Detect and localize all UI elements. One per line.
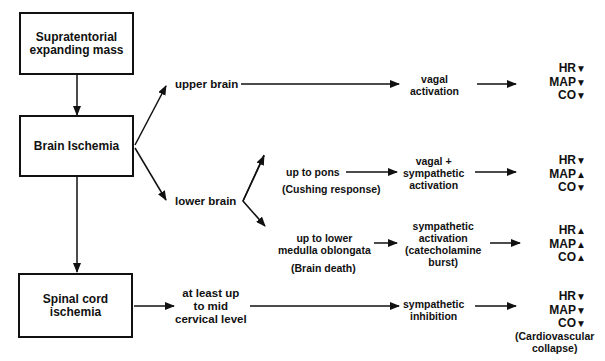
down-triangle-icon: ▼ bbox=[576, 63, 586, 76]
brain-ischemia-box: Brain Ischemia bbox=[19, 115, 134, 177]
outcome-row: CO▼ bbox=[520, 181, 586, 195]
sympathetic-inhibition-label: sympathetic inhibition bbox=[403, 298, 464, 322]
medulla-line-1: up to lower bbox=[278, 232, 371, 244]
up-to-pons-label: up to pons bbox=[286, 166, 340, 178]
down-triangle-icon: ▼ bbox=[576, 291, 586, 304]
medulla-label: up to lower medulla oblongata bbox=[278, 232, 371, 256]
collapse-line-1: (Cardiovascular bbox=[515, 330, 594, 342]
outcome-row: CO▲ bbox=[520, 251, 586, 265]
outcome-row: CO▼ bbox=[520, 317, 586, 331]
up-triangle-icon: ▲ bbox=[576, 252, 586, 265]
outcome-row: CO▼ bbox=[520, 89, 586, 103]
down-triangle-icon: ▼ bbox=[576, 182, 586, 195]
vagal-line-2: activation bbox=[410, 85, 459, 97]
cushing-response-label: (Cushing response) bbox=[282, 183, 381, 195]
vagal-line-1: vagal bbox=[410, 73, 459, 85]
cardiovascular-collapse-label: (Cardiovascular collapse) bbox=[515, 330, 594, 354]
vagal-sympathetic-activation-label: vagal + sympathetic activation bbox=[403, 155, 464, 191]
sympathetic-activation-label: sympathetic activation (catecholamine bu… bbox=[405, 220, 481, 268]
cervical-level-label: at least up to mid cervical level bbox=[175, 287, 247, 326]
si-line-1: sympathetic bbox=[403, 298, 464, 310]
down-triangle-icon: ▼ bbox=[576, 318, 586, 331]
up-triangle-icon: ▲ bbox=[576, 225, 586, 238]
sa-line-1: sympathetic bbox=[405, 220, 481, 232]
collapse-line-2: collapse) bbox=[515, 342, 594, 354]
down-triangle-icon: ▼ bbox=[576, 77, 586, 90]
down-triangle-icon: ▼ bbox=[576, 305, 586, 318]
spinal-cord-ischemia-label: Spinal cord ischemia bbox=[36, 293, 116, 319]
outcome-row: MAP▼ bbox=[520, 304, 586, 318]
si-line-2: inhibition bbox=[403, 310, 464, 322]
brain-ischemia-label: Brain Ischemia bbox=[34, 140, 119, 153]
outcome-row: MAP▲ bbox=[520, 168, 586, 182]
vs-line-2: sympathetic bbox=[403, 167, 464, 179]
cervical-line-1: at least up bbox=[175, 287, 247, 300]
outcome-upper-brain: HR▼ MAP▼ CO▼ bbox=[520, 62, 586, 103]
outcome-spinal: HR▼ MAP▼ CO▼ bbox=[520, 290, 586, 331]
outcome-row: HR▼ bbox=[520, 62, 586, 76]
up-triangle-icon: ▲ bbox=[576, 169, 586, 182]
vs-line-3: activation bbox=[403, 179, 464, 191]
brain-death-label: (Brain death) bbox=[291, 262, 356, 274]
spinal-cord-ischemia-box: Spinal cord ischemia bbox=[18, 273, 133, 338]
outcome-brain-death: HR▲ MAP▲ CO▲ bbox=[520, 224, 586, 265]
outcome-row: HR▲ bbox=[520, 224, 586, 238]
upper-brain-label: upper brain bbox=[175, 78, 238, 91]
down-triangle-icon: ▼ bbox=[576, 155, 586, 168]
supratentorial-mass-box: Supratentorial expanding mass bbox=[19, 12, 134, 75]
up-triangle-icon: ▲ bbox=[576, 239, 586, 252]
down-triangle-icon: ▼ bbox=[576, 90, 586, 103]
outcome-row: HR▼ bbox=[520, 154, 586, 168]
outcome-row: HR▼ bbox=[520, 290, 586, 304]
lower-brain-label: lower brain bbox=[175, 195, 236, 208]
outcome-cushing: HR▼ MAP▲ CO▼ bbox=[520, 154, 586, 195]
supratentorial-mass-label: Supratentorial expanding mass bbox=[29, 31, 124, 57]
sa-line-2: activation bbox=[405, 232, 481, 244]
cervical-line-3: cervical level bbox=[175, 313, 247, 326]
vagal-activation-label: vagal activation bbox=[410, 73, 459, 97]
cervical-line-2: to mid bbox=[175, 300, 247, 313]
medulla-line-2: medulla oblongata bbox=[278, 244, 371, 256]
sa-line-4: burst) bbox=[405, 256, 481, 268]
outcome-row: MAP▼ bbox=[520, 76, 586, 90]
sa-line-3: (catecholamine bbox=[405, 244, 481, 256]
outcome-row: MAP▲ bbox=[520, 238, 586, 252]
vs-line-1: vagal + bbox=[403, 155, 464, 167]
